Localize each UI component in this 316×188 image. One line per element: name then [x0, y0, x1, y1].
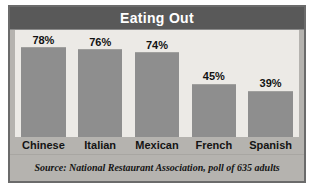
chart-header: Eating Out — [10, 7, 304, 30]
chart-figure: Eating Out 78% 76% 74% 45% 39% — [8, 5, 306, 183]
bar-column-french: 45% — [185, 30, 242, 137]
category-label-spanish: Spanish — [242, 140, 299, 151]
plot-area: 78% 76% 74% 45% 39% — [15, 30, 299, 137]
chart-title: Eating Out — [120, 11, 194, 25]
plot-wrapper: 78% 76% 74% 45% 39% Chinese Ital — [10, 30, 304, 154]
bar-spanish — [248, 91, 292, 137]
bar-value-mexican: 74% — [129, 40, 186, 51]
bar-mexican — [135, 52, 179, 137]
bar-value-chinese: 78% — [15, 35, 72, 46]
bar-column-spanish: 39% — [242, 30, 299, 137]
bar-italian — [78, 49, 122, 137]
bar-french — [192, 84, 236, 137]
category-label-mexican: Mexican — [129, 140, 186, 151]
bar-column-mexican: 74% — [129, 30, 186, 137]
bar-column-chinese: 78% — [15, 30, 72, 137]
category-labels: Chinese Italian Mexican French Spanish — [15, 137, 299, 154]
bar-chinese — [21, 47, 65, 137]
category-label-chinese: Chinese — [15, 140, 72, 151]
bar-value-italian: 76% — [72, 37, 129, 48]
category-label-italian: Italian — [72, 140, 129, 151]
bar-value-spanish: 39% — [242, 78, 299, 89]
source-note: Source: National Restaurant Association,… — [34, 163, 279, 173]
category-label-french: French — [185, 140, 242, 151]
source-band: Source: National Restaurant Association,… — [10, 154, 304, 181]
bar-value-french: 45% — [185, 71, 242, 82]
bar-column-italian: 76% — [72, 30, 129, 137]
